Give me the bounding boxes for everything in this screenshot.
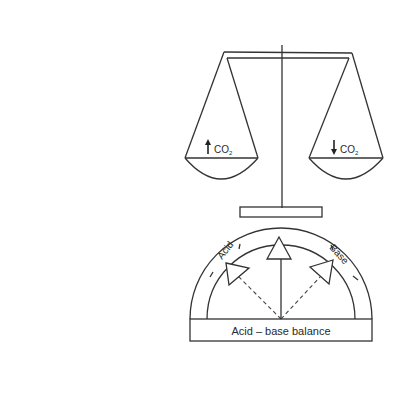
acid-base-balance-label: Acid – base balance <box>231 325 330 337</box>
base-arrowhead-icon <box>310 260 333 284</box>
right-pan: CO2 <box>309 53 383 179</box>
scale-base-plate <box>240 207 322 217</box>
arrow-down-icon <box>331 140 337 155</box>
scale-beam-upper <box>224 52 352 53</box>
left-pan-label: CO2 <box>214 144 233 156</box>
arrow-up-icon <box>205 139 211 154</box>
balance-scale: CO2 CO2 <box>185 45 383 217</box>
left-pan: CO2 <box>185 52 258 179</box>
acid-pointer-line <box>238 276 281 319</box>
right-pan-label: CO2 <box>340 144 359 156</box>
acid-base-gauge: Acid Base Acid – base balance <box>190 228 372 341</box>
acid-arrowhead-icon <box>226 263 249 285</box>
base-pointer-line <box>281 276 321 319</box>
acid-base-balance-diagram: CO2 CO2 Acid Base <box>0 0 414 405</box>
center-arrowhead-icon <box>267 237 291 259</box>
